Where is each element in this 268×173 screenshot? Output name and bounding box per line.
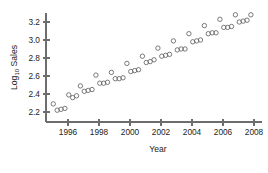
data-point: [202, 23, 206, 27]
y-axis-tick-label: 3.0: [28, 35, 40, 45]
data-point: [94, 73, 98, 77]
data-point: [233, 13, 237, 17]
data-point: [140, 54, 144, 58]
data-point: [152, 58, 156, 62]
y-axis-title: Log10 Sales: [9, 45, 20, 90]
x-axis: 1996199820002002200420062008: [46, 119, 264, 138]
chart-canvas: 2.22.42.62.83.03.2 199619982000200220042…: [0, 0, 268, 173]
x-axis-tick-label: 1998: [90, 127, 109, 137]
data-points: [51, 13, 253, 113]
y-axis: 2.22.42.62.83.03.2: [28, 13, 49, 122]
y-axis-tick-label: 2.8: [28, 53, 40, 63]
x-axis-title: Year: [149, 144, 167, 154]
data-point: [156, 46, 160, 50]
scatter-chart: 2.22.42.62.83.03.2 199619982000200220042…: [0, 0, 268, 173]
data-point: [109, 70, 113, 74]
x-axis-tick-label: 2000: [121, 127, 140, 137]
data-point: [171, 39, 175, 43]
y-axis-tick-label: 2.4: [28, 89, 40, 99]
y-axis-tick-label: 2.6: [28, 71, 40, 81]
y-axis-tick-label: 2.2: [28, 107, 40, 117]
data-point: [187, 32, 191, 36]
data-point: [218, 17, 222, 21]
data-point: [74, 94, 78, 98]
data-point: [249, 13, 253, 17]
x-axis-tick-label: 2004: [183, 127, 202, 137]
data-point: [125, 61, 129, 65]
x-axis-tick-label: 2008: [245, 127, 264, 137]
y-axis-tick-label: 3.2: [28, 17, 40, 27]
x-axis-tick-label: 1996: [59, 127, 78, 137]
x-axis-tick-label: 2002: [152, 127, 171, 137]
data-point: [78, 84, 82, 88]
x-axis-tick-label: 2006: [214, 127, 233, 137]
data-point: [51, 102, 55, 106]
